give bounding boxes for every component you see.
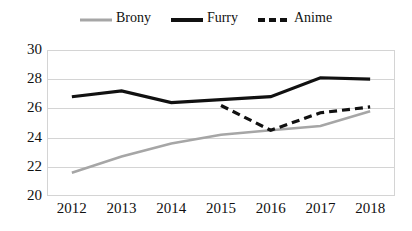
series-line-furry (72, 78, 370, 103)
legend-label-brony: Brony (116, 11, 151, 25)
x-axis-tick-label: 2013 (97, 201, 147, 223)
series-line-brony (72, 111, 370, 172)
y-axis-tick-label: 26 (2, 100, 42, 115)
legend-label-furry: Furry (207, 11, 238, 25)
legend-item-brony: Brony (80, 11, 151, 25)
legend-swatch-furry (171, 12, 203, 24)
x-axis-tick-label: 2015 (196, 201, 246, 223)
x-axis-tick-label: 2014 (146, 201, 196, 223)
x-axis-tick-label: 2016 (246, 201, 296, 223)
x-axis: 2012201320142015201620172018 (47, 201, 395, 223)
legend-label-anime: Anime (294, 11, 332, 25)
y-axis-tick-label: 22 (2, 159, 42, 174)
x-axis-tick-label: 2017 (296, 201, 346, 223)
line-chart: Brony Furry Anime 202224262830 201220132… (0, 0, 412, 231)
legend-item-anime: Anime (258, 11, 332, 25)
legend-swatch-brony (80, 12, 112, 24)
y-axis-tick-label: 28 (2, 71, 42, 86)
chart-legend: Brony Furry Anime (0, 6, 412, 30)
series-layer (47, 50, 395, 196)
x-axis-tick-label: 2018 (345, 201, 395, 223)
y-axis-tick-label: 20 (2, 188, 42, 203)
y-axis-tick-label: 30 (2, 42, 42, 57)
y-axis-tick-label: 24 (2, 130, 42, 145)
legend-item-furry: Furry (171, 11, 238, 25)
legend-swatch-anime (258, 12, 290, 24)
x-axis-tick-label: 2012 (47, 201, 97, 223)
y-axis: 202224262830 (0, 50, 42, 196)
